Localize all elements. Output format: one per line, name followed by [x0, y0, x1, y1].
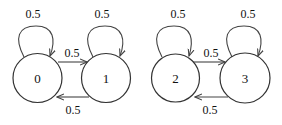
state-label-1: 1	[103, 71, 110, 86]
edge-label-3-3: 0.5	[241, 7, 256, 21]
edge-label-0-1: 0.5	[65, 46, 80, 60]
self-loop-3	[227, 26, 261, 57]
edge-label-1-1: 0.5	[95, 7, 110, 21]
self-loop-1	[88, 26, 123, 57]
markov-chain-diagram: 0.5 0.5 0.5 0.5 0 1 0.5 0.5 0.5 0.5 2 3	[0, 0, 282, 125]
component-0-1: 0.5 0.5 0.5 0.5 0 1	[13, 7, 131, 117]
edge-label-0-0: 0.5	[26, 7, 41, 21]
edge-label-1-0: 0.5	[66, 103, 81, 117]
self-loop-2	[157, 26, 192, 57]
edge-label-3-2: 0.5	[203, 103, 218, 117]
component-2-3: 0.5 0.5 0.5 0.5 2 3	[152, 7, 271, 117]
self-loop-0	[19, 26, 53, 57]
edge-label-2-3: 0.5	[204, 46, 219, 60]
state-label-2: 2	[172, 71, 179, 86]
state-label-0: 0	[34, 71, 41, 86]
state-label-3: 3	[242, 71, 249, 86]
edge-label-2-2: 0.5	[171, 7, 186, 21]
